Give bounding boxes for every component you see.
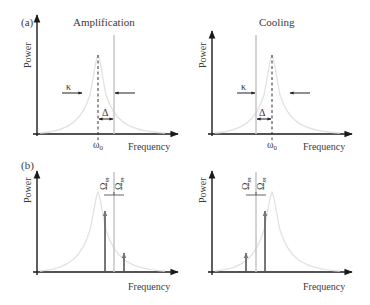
sideband-label-left: Ωm — [240, 178, 253, 191]
x-axis-label: Frequency — [303, 141, 345, 152]
x-axis-label: Frequency — [128, 141, 170, 152]
x-axis-label: Frequency — [303, 281, 345, 292]
sideband-label-right: Ωm — [255, 178, 268, 191]
kappa-label: κ — [241, 81, 246, 92]
kappa-label: κ — [66, 81, 71, 92]
panel-b-amplification: (b) Power Ωm Ωm Frequency — [21, 159, 178, 292]
sideband-label-left: Ωm — [98, 178, 111, 191]
panel-b-cooling: Power Ωm Ωm Frequency — [197, 171, 352, 292]
sideband-bracket — [104, 192, 124, 195]
y-axis-label: Power — [197, 42, 208, 68]
panel-b-label: (b) — [21, 159, 34, 172]
resonance-label: ω0 — [267, 139, 278, 152]
sideband-bracket — [246, 192, 266, 195]
detuning-label: Δ — [102, 107, 109, 118]
cavity-lorentzian — [40, 192, 165, 271]
optomechanics-figure: (a) Amplification Power κ Δ ω0 Frequency… — [0, 0, 370, 305]
x-axis-label: Frequency — [128, 281, 170, 292]
resonance-label: ω0 — [93, 139, 104, 152]
panel-a-cooling: Cooling Power κ Δ ω0 Frequency — [197, 16, 352, 152]
detuning-label: Δ — [259, 107, 266, 118]
cooling-title: Cooling — [259, 16, 295, 28]
cavity-lorentzian — [215, 192, 340, 271]
cavity-lorentzian — [40, 55, 165, 133]
panel-a-amplification: (a) Amplification Power κ Δ ω0 Frequency — [21, 15, 178, 152]
sideband-label-right: Ωm — [113, 178, 126, 191]
y-axis-label: Power — [197, 177, 208, 203]
y-axis-label: Power — [22, 42, 33, 68]
panel-a-label: (a) — [21, 16, 34, 29]
amplification-title: Amplification — [73, 16, 135, 28]
cavity-lorentzian — [215, 55, 340, 133]
y-axis-label: Power — [22, 177, 33, 203]
